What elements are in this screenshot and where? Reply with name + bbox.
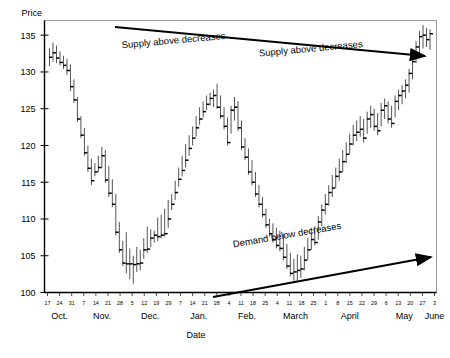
x-tick-day-label: 11 (287, 300, 293, 306)
y-axis-title: Price (21, 8, 42, 18)
x-tick-day-label: 6 (385, 300, 388, 306)
x-tick-day-label: 21 (105, 300, 111, 306)
x-tick-day-label: 14 (190, 300, 196, 306)
x-tick-day-label: 29 (165, 300, 171, 306)
x-month-label: March (283, 311, 308, 321)
y-tick-label: 100 (20, 288, 35, 298)
x-tick-day-label: 19 (153, 300, 159, 306)
x-tick-day-label: 3 (433, 300, 436, 306)
x-tick-day-label: 8 (336, 300, 339, 306)
price-chart-figure: Price Date 100105110115120125130135 1724… (0, 0, 450, 358)
x-tick-day-label: 24 (57, 300, 63, 306)
demand-trendline-arrow (213, 257, 431, 297)
x-tick-day-label: 25 (311, 300, 317, 306)
chart-annotations: Supply above decreasesSupply above decre… (115, 27, 431, 297)
x-tick-day-label: 7 (82, 300, 85, 306)
x-tick-day-label: 1 (324, 300, 327, 306)
x-tick-day-label: 5 (131, 300, 134, 306)
x-tick-day-label: 28 (117, 300, 123, 306)
x-tick-day-label: 17 (45, 300, 51, 306)
x-tick-day-label: 22 (359, 300, 365, 306)
x-tick-day-label: 15 (347, 300, 353, 306)
y-tick-label: 120 (20, 141, 35, 151)
x-tick-day-label: 25 (262, 300, 268, 306)
y-tick-label: 125 (20, 104, 35, 114)
x-tick-day-label: 4 (276, 300, 279, 306)
x-month-label: Oct. (51, 311, 68, 321)
x-month-label: June (425, 311, 445, 321)
x-month-label: Jan. (190, 311, 207, 321)
y-tick-label: 105 (20, 251, 35, 261)
x-month-label: Feb. (238, 311, 256, 321)
x-tick-day-label: 18 (298, 300, 304, 306)
x-tick-day-label: 20 (407, 300, 413, 306)
y-tick-label: 135 (20, 31, 35, 41)
x-axis: 1724317142128512192971421284111825411182… (45, 293, 445, 321)
chart-canvas: Price Date 100105110115120125130135 1724… (0, 0, 450, 358)
y-tick-label: 110 (21, 214, 35, 224)
x-axis-title: Date (186, 330, 205, 340)
x-month-label: May (396, 311, 414, 321)
x-tick-day-label: 11 (238, 300, 244, 306)
x-tick-day-label: 4 (227, 300, 230, 306)
x-month-label: Dec. (141, 311, 160, 321)
y-tick-label: 115 (21, 178, 35, 188)
x-tick-day-label: 28 (214, 300, 220, 306)
x-month-label: April (341, 311, 359, 321)
x-tick-day-label: 21 (202, 300, 208, 306)
x-tick-day-label: 29 (371, 300, 377, 306)
x-tick-day-label: 31 (69, 300, 75, 306)
x-tick-day-label: 18 (250, 300, 256, 306)
x-tick-day-label: 13 (395, 300, 401, 306)
y-tick-label: 130 (20, 67, 35, 77)
x-tick-day-label: 27 (419, 300, 425, 306)
x-tick-day-label: 14 (93, 300, 99, 306)
x-month-label: Nov. (93, 311, 111, 321)
x-tick-day-label: 12 (141, 300, 147, 306)
x-tick-day-label: 7 (179, 300, 182, 306)
